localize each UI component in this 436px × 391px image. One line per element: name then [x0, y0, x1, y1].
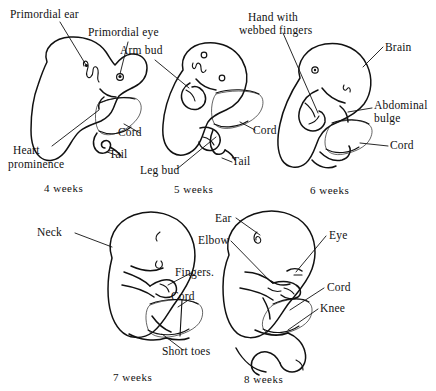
caption-5-weeks: 5 weeks [174, 183, 213, 195]
leader-lines-5-weeks [155, 60, 255, 169]
label-brain: Brain [385, 41, 412, 54]
label-heart-prominence-line2: prominence [8, 158, 64, 171]
label-knee: Knee [320, 302, 345, 315]
label-abdominal-bulge-line1: Abdominal [374, 99, 428, 112]
embryo-line-art [0, 0, 436, 391]
caption-8-weeks: 8 weeks [244, 373, 283, 385]
label-primordial-eye: Primordial eye [88, 26, 159, 39]
caption-4-weeks: 4 weeks [44, 182, 83, 194]
label-cord-5-weeks: Cord [253, 124, 277, 137]
label-leg-bud: Leg bud [140, 164, 179, 177]
label-hand-webbed-fingers-line1: Hand with [248, 11, 298, 24]
label-arm-bud: Arm bud [120, 44, 163, 57]
label-heart-prominence-line1: Heart [13, 144, 40, 157]
embryo-development-figure: Primordial ear Primordial eye Cord Tail … [0, 0, 436, 391]
label-hand-webbed-fingers-line2: webbed fingers [239, 24, 312, 37]
embryo-4-weeks [31, 22, 147, 160]
label-cord-7-weeks: Cord [171, 290, 195, 303]
caption-7-weeks: 7 weeks [113, 371, 152, 383]
label-tail-5-weeks: Tail [232, 155, 251, 168]
embryo-8-weeks [223, 211, 326, 375]
label-abdominal-bulge-line2: bulge [374, 112, 401, 125]
embryo-7-weeks [75, 212, 203, 350]
label-primordial-ear: Primordial ear [10, 8, 79, 21]
embryo-5-weeks [155, 43, 263, 169]
label-eye: Eye [329, 229, 347, 242]
label-cord-8-weeks: Cord [327, 281, 351, 294]
caption-6-weeks: 6 weeks [310, 184, 349, 196]
label-fingers: Fingers. [175, 266, 214, 279]
label-short-toes: Short toes [162, 345, 210, 358]
label-cord-6-weeks: Cord [390, 139, 414, 152]
label-elbow: Elbow [198, 234, 229, 247]
label-ear: Ear [215, 212, 232, 225]
label-cord-4-weeks: Cord [118, 126, 142, 139]
label-tail-4-weeks: Tail [109, 148, 128, 161]
embryo-6-weeks [278, 33, 388, 168]
label-neck: Neck [37, 226, 62, 239]
